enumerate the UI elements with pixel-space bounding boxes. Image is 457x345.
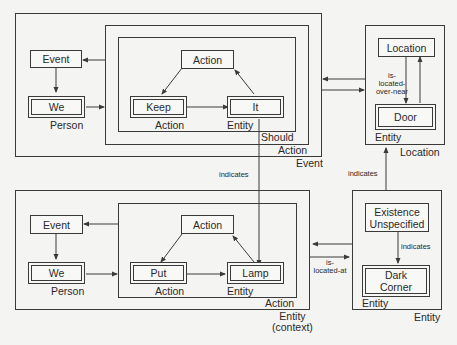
node-label: Keep [146, 101, 171, 113]
event-node-bottom: Event [30, 215, 83, 234]
dark-corner-type-label: Entity [362, 298, 388, 309]
node-label: We [49, 101, 65, 113]
existence-unspecified-node: Existence Unspecified [365, 203, 429, 232]
is-located-at-label: is- located-at [308, 259, 352, 275]
action-node-top: Action [181, 50, 234, 69]
door-node: Door [375, 104, 436, 130]
lamp-type-label: Entity [227, 286, 253, 297]
node-label: Event [43, 53, 70, 65]
node-label: Existence Unspecified [370, 206, 425, 230]
put-type-label: Action [155, 286, 184, 297]
entity-context-frame-label: Entity (context) [272, 311, 313, 333]
indicates-label-existence: indicates [401, 243, 431, 251]
node-label: Action [193, 54, 222, 66]
entity-frame-label-bottom-right: Entity [414, 312, 440, 323]
is-located-over-near-label: is- located- over-near [366, 72, 418, 96]
lamp-node: Lamp [227, 262, 284, 284]
node-label: Dark Corner [380, 269, 412, 293]
node-label: Door [394, 111, 417, 123]
we-node-bottom: We [28, 262, 85, 284]
it-type-label: Entity [227, 120, 253, 131]
node-label: Put [151, 267, 167, 279]
node-label: We [49, 267, 65, 279]
location-node: Location [378, 38, 435, 57]
should-frame-label: Should [261, 132, 294, 143]
event-frame-label-top: Event [296, 158, 323, 169]
action-frame-label-bottom: Action [265, 298, 294, 309]
keep-type-label: Action [155, 120, 184, 131]
location-frame-label: Location [400, 147, 440, 158]
door-type-label: Entity [375, 132, 401, 143]
action-frame-label-top: Action [278, 145, 307, 156]
node-label: It [253, 101, 259, 113]
indicates-label-entity-location: indicates [348, 170, 378, 178]
keep-node: Keep [130, 96, 187, 118]
node-label: Location [387, 42, 427, 54]
dark-corner-node: Dark Corner [362, 265, 430, 297]
indicates-label-it-lamp: indicates [219, 171, 249, 179]
action-node-bottom: Action [181, 215, 234, 234]
we-node-top: We [28, 96, 85, 118]
node-label: Action [193, 219, 222, 231]
we-type-label-bottom: Person [51, 286, 84, 297]
we-type-label-top: Person [50, 120, 83, 131]
it-node: It [227, 96, 284, 118]
put-node: Put [130, 262, 187, 284]
semantic-network-diagram: Event We Person Action Keep Action It En… [0, 0, 457, 345]
event-node-top: Event [30, 50, 82, 68]
node-label: Event [43, 219, 70, 231]
node-label: Lamp [242, 267, 268, 279]
